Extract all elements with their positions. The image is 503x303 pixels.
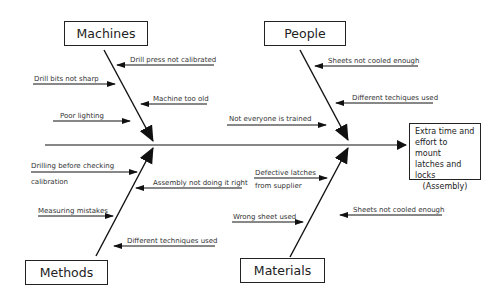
cause-different-techiques: Different techiques used <box>352 94 438 103</box>
cause-from-supplier: from supplier <box>255 182 302 191</box>
cause-wrong-sheet: Wrong sheet used <box>233 213 296 222</box>
cause-drilling-before: Drilling before checking <box>31 162 114 171</box>
cause-machine-old: Machine too old <box>153 95 209 104</box>
cause-different-techniques-methods: Different techniques used <box>127 237 218 246</box>
effect-subtitle: (Assembly) <box>415 181 475 192</box>
materials-bone <box>290 148 348 257</box>
category-people: People <box>264 21 346 46</box>
cause-measuring-mistakes: Measuring mistakes <box>38 207 108 216</box>
category-methods: Methods <box>25 260 108 285</box>
effect-box: Extra time and effort to mount latches a… <box>409 123 481 180</box>
cause-calibration: calibration <box>31 178 68 187</box>
effect-line-2: effort to mount <box>415 137 475 159</box>
cause-not-trained: Not everyone is trained <box>229 115 311 124</box>
cause-defective-latches: Defective latches <box>255 169 316 178</box>
effect-line-1: Extra time and <box>415 126 475 137</box>
effect-line-3: latches and locks <box>415 159 475 181</box>
cause-assembly-not-right: Assembly not doing it right <box>153 179 248 188</box>
cause-sheets-not-cooled-people: Sheets not cooled enough <box>328 57 419 66</box>
cause-drill-press: Drill press not calibrated <box>130 56 216 65</box>
category-materials: Materials <box>240 258 325 283</box>
cause-drill-bits: Drill bits not sharp <box>34 75 99 84</box>
cause-sheets-not-cooled-materials: Sheets not cooled enough <box>353 206 444 215</box>
cause-poor-lighting: Poor lighting <box>60 112 104 121</box>
category-machines: Machines <box>64 21 148 46</box>
